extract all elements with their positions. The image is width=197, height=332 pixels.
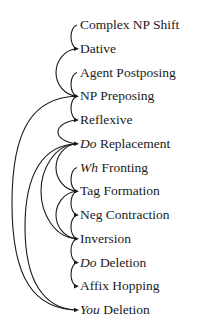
rule-label-text: NP Preposing	[80, 88, 154, 103]
ordering-arc	[58, 120, 77, 144]
rule-label-text: Agent Postposing	[80, 65, 176, 80]
rule-label: NP Preposing	[80, 88, 154, 104]
ordering-arc	[71, 25, 77, 49]
arrowhead-icon	[74, 47, 79, 51]
arrowhead-icon	[74, 94, 79, 98]
ordering-arc	[12, 96, 77, 310]
rule-label-italic: Do	[80, 136, 97, 151]
rule-label-text: Deletion	[100, 302, 150, 317]
ordering-arc	[71, 96, 77, 120]
rule-label-text: Neg Contraction	[80, 207, 170, 222]
rule-label-text: Complex NP Shift	[80, 17, 179, 32]
rule-label-text: Reflexive	[80, 112, 132, 127]
rule-label: Inversion	[80, 231, 131, 247]
arrowhead-icon	[74, 213, 79, 217]
arrowhead-icon	[74, 189, 79, 193]
rule-label-text: Tag Formation	[80, 183, 160, 198]
rule-label: Do Replacement	[80, 136, 170, 152]
ordering-arc	[71, 191, 77, 215]
rule-label-text: Affix Hopping	[80, 278, 160, 293]
rule-label: Agent Postposing	[80, 65, 176, 81]
rule-label-text: Replacement	[97, 136, 171, 151]
ordering-arc	[71, 168, 77, 192]
rule-label-text: Deletion	[97, 255, 147, 270]
ordering-arc	[71, 263, 77, 287]
rule-label-italic: Do	[80, 255, 97, 270]
arrowhead-icon	[74, 118, 79, 122]
rule-label-text: Inversion	[80, 231, 131, 246]
rule-label: Tag Formation	[80, 183, 160, 199]
arrowhead-icon	[74, 142, 79, 146]
rule-label: Wh Fronting	[80, 160, 148, 176]
rule-label: Neg Contraction	[80, 207, 170, 223]
rule-label-text: Dative	[80, 41, 116, 56]
rule-label: Do Deletion	[80, 255, 146, 271]
ordering-arc	[25, 144, 77, 310]
rule-label-italic: You	[80, 302, 100, 317]
rule-label: You Deletion	[80, 302, 150, 318]
ordering-arc	[56, 49, 77, 97]
ordering-arc	[71, 239, 77, 263]
rule-label-italic: Wh	[80, 160, 98, 175]
ordering-arc	[71, 73, 77, 97]
rule-label: Complex NP Shift	[80, 17, 179, 33]
arrowhead-icon	[74, 308, 79, 312]
rule-label: Dative	[80, 41, 116, 57]
rule-label: Affix Hopping	[80, 278, 160, 294]
ordering-arc	[71, 215, 77, 239]
rule-label: Reflexive	[80, 112, 132, 128]
arrowhead-icon	[74, 260, 79, 264]
rule-label-text: Fronting	[98, 160, 148, 175]
arrowhead-icon	[74, 237, 79, 241]
arrowhead-icon	[74, 284, 79, 288]
